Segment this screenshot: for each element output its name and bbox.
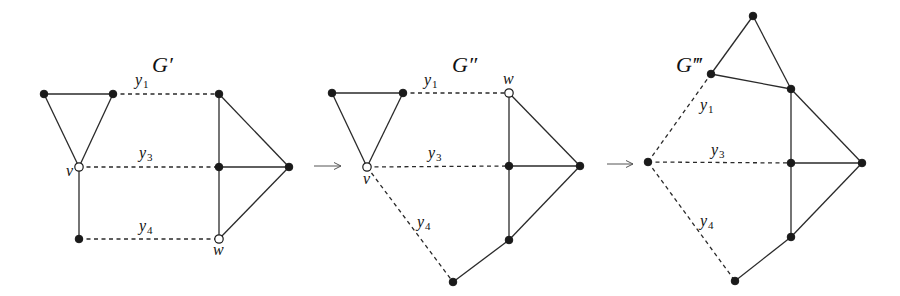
dashed-edge-l-h: [648, 162, 735, 281]
vertex-e: [215, 163, 223, 171]
edge-t-a: [711, 16, 753, 74]
edge-d-f: [791, 89, 862, 163]
vertex-a: [328, 89, 336, 97]
edge-b-v: [367, 93, 403, 167]
edge-b-v: [79, 94, 113, 167]
edge-g-h: [453, 240, 509, 282]
vertex-f: [858, 159, 866, 167]
edge-w-f: [219, 167, 289, 239]
graph-g1: y1y3y4vwG′: [40, 52, 293, 258]
vertex-l: [644, 158, 652, 166]
edge-label-y4: y4: [698, 212, 714, 231]
graph-title: G″: [452, 52, 478, 77]
vertex-g: [787, 233, 795, 241]
vertex-e: [505, 162, 513, 170]
vertex-label-v: v: [66, 162, 74, 179]
edge-label-y3: y3: [709, 141, 725, 160]
edge-w-f: [509, 93, 580, 166]
edge-g-f: [509, 166, 580, 240]
graph-title: G′: [152, 52, 174, 77]
edge-a-v: [44, 94, 79, 167]
vertex-f: [576, 162, 584, 170]
vertex-c: [75, 235, 83, 243]
vertex-e: [787, 159, 795, 167]
vertex-f: [285, 163, 293, 171]
dashed-edge-l-e: [648, 162, 791, 163]
vertex-label-w: w: [213, 241, 224, 258]
graph-g2: y1y3y4vwG″: [328, 52, 584, 286]
graph-g3: y1y3y4G‴: [644, 12, 866, 285]
vertex-a: [40, 90, 48, 98]
edge-g-f: [791, 163, 862, 237]
vertex-d: [787, 85, 795, 93]
dashed-edge-v-h: [367, 167, 453, 282]
vertex-a: [707, 70, 715, 78]
graph-title: G‴: [676, 52, 703, 77]
vertex-label-v: v: [363, 170, 371, 187]
vertex-v: [75, 163, 83, 171]
vertex-b: [399, 89, 407, 97]
dashed-edge-l-a: [648, 74, 711, 162]
diagram-svg: y1y3y4vwG′y1y3y4vwG″y1y3y4G‴: [0, 0, 900, 296]
edge-a-d: [711, 74, 791, 89]
edge-t-d: [753, 16, 791, 89]
edge-a-v: [332, 93, 367, 167]
vertex-h: [731, 277, 739, 285]
vertex-b: [109, 90, 117, 98]
edge-d-f: [219, 94, 289, 167]
edge-label-y1: y1: [133, 71, 149, 90]
vertex-w: [505, 89, 513, 97]
edge-label-y4: y4: [415, 213, 431, 232]
vertex-g: [505, 236, 513, 244]
vertex-d: [215, 90, 223, 98]
edge-label-y4: y4: [137, 217, 153, 236]
dashed-edge-v-e: [367, 166, 509, 167]
edge-label-y3: y3: [426, 144, 442, 163]
edge-label-y1: y1: [698, 96, 714, 115]
edge-g-h: [735, 237, 791, 281]
edge-label-y1: y1: [422, 71, 438, 90]
vertex-h: [449, 278, 457, 286]
vertex-label-w: w: [503, 70, 514, 87]
graph-transformation-diagram: y1y3y4vwG′y1y3y4vwG″y1y3y4G‴: [0, 0, 900, 296]
edge-label-y3: y3: [137, 144, 153, 163]
vertex-t: [749, 12, 757, 20]
